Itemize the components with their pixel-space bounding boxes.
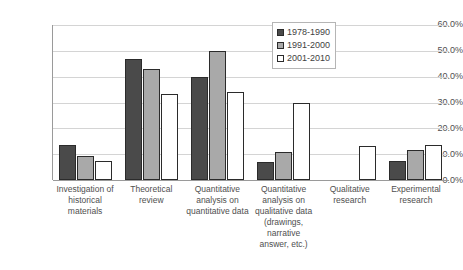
x-axis-category-label: Quantitative analysis on quantitative da… [184,184,250,217]
x-axis-category-label: Investigation of historical materials [52,184,118,217]
bar [389,161,406,180]
bar [275,152,292,180]
bar [257,162,274,180]
legend-item: 1991-2000 [277,39,330,52]
bar [227,92,244,180]
bar [59,145,76,180]
legend-swatch-icon [277,29,284,36]
bar-group [118,25,184,180]
legend-swatch-icon [277,42,284,49]
bar [161,94,178,181]
bar [359,146,376,180]
x-axis-category-label: Theoretical review [118,184,184,206]
bar-group [184,25,250,180]
bar [125,59,142,180]
bar [407,150,424,180]
legend-item-label: 1978-1990 [287,28,330,37]
x-axis-category-label: Qualitative research [317,184,383,206]
bar [209,51,226,180]
legend-item: 1978-1990 [277,26,330,39]
bar [425,145,442,180]
legend-item-label: 1991-2000 [287,41,330,50]
x-axis-line [53,180,449,181]
bar [143,69,160,180]
legend-swatch-icon [277,55,284,62]
bar [95,161,112,180]
bar [77,156,94,181]
chart-legend: 1978-1990 1991-2000 2001-2010 [272,22,336,69]
bar-chart: 60.0% 50.0% 40.0% 30.0% 20.0% 10.0% 0.0% [0,0,463,270]
bar-group [383,25,449,180]
legend-item-label: 2001-2010 [287,54,330,63]
x-axis-category-label: Quantitative analysis on qualitative dat… [251,184,317,250]
bar [191,77,208,180]
bar-groups [52,25,449,180]
x-axis-category-label: Experimental research [383,184,449,206]
bar-group [52,25,118,180]
x-axis-labels: Investigation of historical materials Th… [52,184,449,250]
bar [293,103,310,181]
legend-item: 2001-2010 [277,52,330,65]
